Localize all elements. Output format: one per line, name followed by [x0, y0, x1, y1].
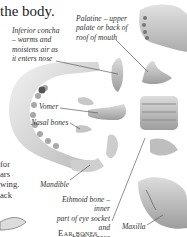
label-inferior-concha: Inferior concha – warms and moistens air…: [12, 26, 59, 64]
section-heading-ear-bones: Ear bones: [58, 228, 98, 237]
body-text-line: wing.: [0, 179, 19, 189]
body-text-line: ack: [0, 190, 19, 200]
label-line: it enters nose: [12, 54, 59, 63]
ear-bone-illustration: [0, 218, 26, 231]
body-text-line: ars: [0, 169, 19, 179]
inferior-concha-illustration: [111, 58, 172, 92]
label-line: moistens air as: [12, 45, 59, 54]
label-line: – warms and: [12, 35, 59, 44]
label-line: Ethmoid bone – inner: [46, 195, 110, 214]
vomer-illustration: [78, 97, 126, 120]
body-text: for ars wing. ack: [0, 159, 19, 200]
body-text-line: for: [0, 159, 19, 169]
label-mandible: Mandible: [40, 180, 69, 189]
label-palatine: Palatine – upper palate or back of roof …: [76, 14, 128, 42]
label-maxilla: Maxilla: [122, 222, 146, 231]
label-nasal-bones: Nasal bones: [31, 118, 68, 127]
ethmoid-illustration: [140, 96, 178, 130]
label-line: Inferior concha: [12, 26, 59, 35]
label-line: Palatine – upper: [76, 14, 128, 23]
label-vomer: Vomer: [39, 102, 58, 111]
label-line: palate or back of: [76, 23, 128, 32]
label-line: roof of mouth: [76, 33, 128, 42]
nasal-bones-illustration: [76, 125, 92, 133]
palate-illustration: [139, 4, 187, 52]
